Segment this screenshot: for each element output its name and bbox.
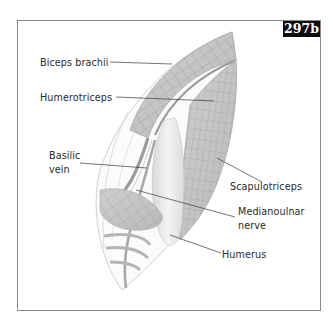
label-humerotriceps: Humerotriceps	[40, 91, 112, 104]
label-biceps-brachii: Biceps brachii	[40, 56, 109, 69]
figure-id-badge: 297b	[283, 21, 320, 37]
label-scapulotriceps: Scapulotriceps	[230, 180, 302, 193]
label-medianoulnar-nerve-line1: Medianoulnar	[238, 205, 305, 218]
label-basilic-vein-line2: vein	[49, 163, 70, 176]
label-medianoulnar-nerve-line2: nerve	[238, 219, 266, 232]
label-humerus: Humerus	[222, 248, 266, 261]
label-basilic-vein-line1: Basilic	[49, 149, 80, 162]
